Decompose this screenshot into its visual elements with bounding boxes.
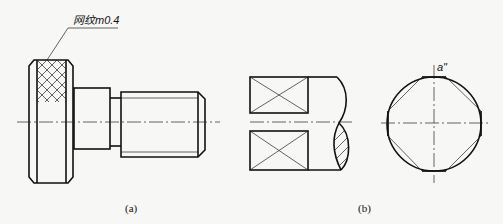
figure-b-section: (b): [250, 77, 371, 215]
view-label: a": [437, 61, 448, 73]
knurl-leader-line: [47, 28, 118, 60]
threaded-shank: [121, 92, 205, 157]
knurl-hatch: [0, 60, 107, 110]
figure-a-knurled-pin: 网纹m0.4 (a): [0, 14, 220, 215]
drawing-canvas: 网纹m0.4 (a): [0, 0, 503, 224]
caption-a: (a): [125, 202, 138, 215]
knurl-note: 网纹m0.4: [73, 14, 119, 26]
caption-b: (b): [358, 202, 371, 215]
section-hatch: [325, 120, 355, 200]
collar: [74, 88, 110, 149]
end-view: a": [381, 61, 489, 183]
